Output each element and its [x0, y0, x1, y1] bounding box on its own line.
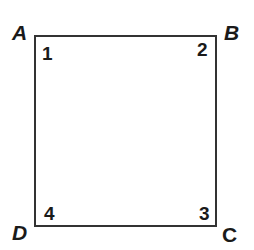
angle-label-3: 3	[199, 204, 210, 223]
square-ABCD	[34, 35, 217, 227]
angle-label-4: 4	[44, 204, 55, 223]
angle-label-2: 2	[197, 40, 208, 59]
vertex-label-c: C	[222, 224, 237, 245]
vertex-label-d: D	[12, 222, 27, 243]
angle-label-1: 1	[42, 44, 53, 63]
square-diagram: A B C D 1 2 3 4	[0, 0, 254, 250]
vertex-label-a: A	[12, 22, 27, 43]
vertex-label-b: B	[224, 22, 239, 43]
